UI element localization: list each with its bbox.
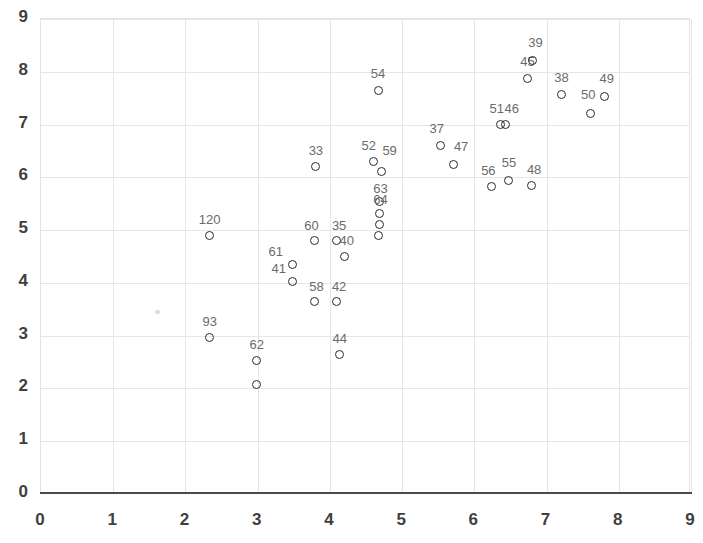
x-tick-label: 9 bbox=[677, 510, 703, 530]
gridline-horizontal bbox=[41, 230, 689, 231]
data-point-label: 120 bbox=[198, 212, 222, 227]
gridline-vertical bbox=[474, 19, 475, 493]
gridline-horizontal bbox=[41, 19, 689, 20]
data-point[interactable] bbox=[252, 356, 261, 365]
x-tick-label: 2 bbox=[171, 510, 197, 530]
gridline-horizontal bbox=[41, 336, 689, 337]
y-tick-label: 7 bbox=[2, 113, 28, 133]
x-tick-label: 3 bbox=[244, 510, 270, 530]
y-tick-label: 6 bbox=[2, 165, 28, 185]
data-point[interactable] bbox=[374, 231, 383, 240]
data-point-label: 47 bbox=[449, 139, 473, 154]
gridline-vertical bbox=[185, 19, 186, 493]
gridline-vertical bbox=[619, 19, 620, 493]
data-point[interactable] bbox=[449, 160, 458, 169]
y-tick-label: 8 bbox=[2, 60, 28, 80]
data-point-label: 64 bbox=[368, 192, 392, 207]
data-point-label: 39 bbox=[524, 35, 548, 50]
gridline-vertical bbox=[691, 19, 692, 493]
data-point-label: 50 bbox=[576, 87, 600, 102]
x-tick-label: 5 bbox=[388, 510, 414, 530]
data-point-label: 33 bbox=[304, 143, 328, 158]
data-point[interactable] bbox=[205, 333, 214, 342]
data-point[interactable] bbox=[527, 181, 536, 190]
gridline-vertical bbox=[547, 19, 548, 493]
data-point-label: 41 bbox=[267, 261, 291, 276]
data-point[interactable] bbox=[374, 86, 383, 95]
data-point[interactable] bbox=[528, 56, 537, 65]
gridline-horizontal bbox=[41, 177, 689, 178]
data-point-label: 61 bbox=[264, 244, 288, 259]
y-tick-label: 9 bbox=[2, 7, 28, 27]
x-tick-label: 8 bbox=[605, 510, 631, 530]
paper-smudge bbox=[155, 310, 160, 314]
data-point[interactable] bbox=[375, 209, 384, 218]
data-point-label: 38 bbox=[549, 70, 573, 85]
gridline-vertical bbox=[402, 19, 403, 493]
data-point[interactable] bbox=[377, 167, 386, 176]
data-point-label: 46 bbox=[500, 101, 524, 116]
x-tick-label: 4 bbox=[316, 510, 342, 530]
data-point-label: 62 bbox=[245, 337, 269, 352]
data-point[interactable] bbox=[504, 176, 513, 185]
data-point[interactable] bbox=[600, 92, 609, 101]
gridline-horizontal bbox=[41, 72, 689, 73]
scatter-chart: 0123456789 0123456789 120936261416058354… bbox=[0, 0, 703, 543]
y-tick-label: 0 bbox=[2, 482, 28, 502]
data-point-label: 60 bbox=[299, 218, 323, 233]
gridline-vertical bbox=[330, 19, 331, 493]
data-point-label: 55 bbox=[497, 155, 521, 170]
gridline-horizontal bbox=[41, 125, 689, 126]
data-point-label: 44 bbox=[328, 331, 352, 346]
x-tick-label: 6 bbox=[460, 510, 486, 530]
data-point-label: 58 bbox=[304, 279, 328, 294]
y-tick-label: 5 bbox=[2, 218, 28, 238]
data-point-label: 40 bbox=[335, 233, 359, 248]
x-axis-line bbox=[40, 492, 692, 494]
y-tick-label: 3 bbox=[2, 324, 28, 344]
data-point[interactable] bbox=[557, 90, 566, 99]
y-tick-label: 2 bbox=[2, 376, 28, 396]
data-point-label: 48 bbox=[522, 162, 546, 177]
data-point-label: 93 bbox=[198, 314, 222, 329]
data-point[interactable] bbox=[586, 109, 595, 118]
x-tick-label: 0 bbox=[27, 510, 53, 530]
x-tick-label: 7 bbox=[533, 510, 559, 530]
gridline-horizontal bbox=[41, 441, 689, 442]
data-point-label: 42 bbox=[327, 279, 351, 294]
data-point-label: 35 bbox=[327, 218, 351, 233]
data-point-label: 59 bbox=[378, 143, 402, 158]
data-point-label: 54 bbox=[366, 66, 390, 81]
gridline-horizontal bbox=[41, 283, 689, 284]
gridline-vertical bbox=[113, 19, 114, 493]
data-point-label: 37 bbox=[425, 121, 449, 136]
data-point-label: 49 bbox=[595, 71, 619, 86]
gridline-horizontal bbox=[41, 388, 689, 389]
gridline-vertical bbox=[258, 19, 259, 493]
y-tick-label: 4 bbox=[2, 271, 28, 291]
y-tick-label: 1 bbox=[2, 429, 28, 449]
x-tick-label: 1 bbox=[99, 510, 125, 530]
